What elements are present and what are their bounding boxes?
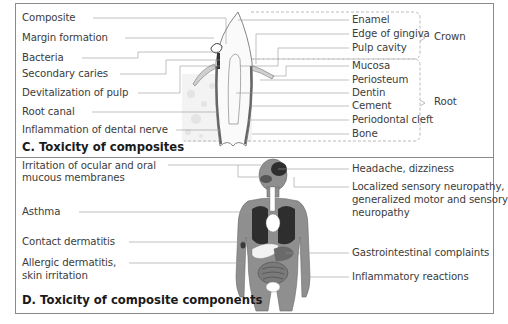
label-asthma: Asthma	[22, 206, 60, 218]
label-inflammatory-reactions: Inflammatory reactions	[352, 271, 469, 283]
label-contact-dermatitis: Contact dermatitis	[22, 236, 115, 248]
label-irritation-ocular-oral-line1: Irritation of ocular and oral	[22, 160, 156, 172]
panel-toxicity-of-composites: Composite Margin formation Bacteria Seco…	[15, 3, 494, 158]
label-allergic-dermatitis-line1: Allergic dermatitis,	[22, 257, 116, 269]
label-neuropathy-line2: generalized motor and sensory	[352, 194, 508, 206]
label-composite: Composite	[22, 12, 75, 24]
label-root-canal: Root canal	[22, 106, 75, 118]
label-enamel: Enamel	[352, 14, 390, 26]
group-label-root: Root	[434, 96, 457, 108]
label-periosteum: Periosteum	[352, 74, 408, 86]
panel-d-title: D. Toxicity of composite components	[22, 293, 262, 307]
label-headache-dizziness: Headache, dizziness	[352, 163, 454, 175]
label-devitalization-of-pulp: Devitalization of pulp	[22, 87, 128, 99]
label-allergic-dermatitis-line2: skin irritation	[22, 270, 88, 282]
label-irritation-ocular-oral-line2: mucous membranes	[22, 172, 125, 184]
label-bacteria: Bacteria	[22, 52, 64, 64]
label-mucosa: Mucosa	[352, 60, 390, 72]
label-neuropathy-line1: Localized sensory neuropathy,	[352, 181, 505, 193]
label-edge-of-gingiva: Edge of gingiva	[352, 28, 430, 40]
label-pulp-cavity: Pulp cavity	[352, 42, 407, 54]
label-dentin: Dentin	[352, 87, 385, 99]
label-bone: Bone	[352, 128, 378, 140]
label-margin-formation: Margin formation	[22, 32, 108, 44]
label-periodontal-cleft: Periodontal cleft	[352, 114, 433, 126]
panel-toxicity-of-composite-components: Irritation of ocular and oral mucous mem…	[15, 157, 494, 314]
label-gastrointestinal-complaints: Gastrointestinal complaints	[352, 247, 489, 259]
group-label-crown: Crown	[434, 31, 466, 43]
label-secondary-caries: Secondary caries	[22, 68, 108, 80]
panel-c-title: C. Toxicity of composites	[22, 140, 184, 154]
label-cement: Cement	[352, 100, 391, 112]
label-neuropathy-line3: neuropathy	[352, 207, 410, 219]
label-inflammation-of-dental-nerve: Inflammation of dental nerve	[22, 124, 168, 136]
